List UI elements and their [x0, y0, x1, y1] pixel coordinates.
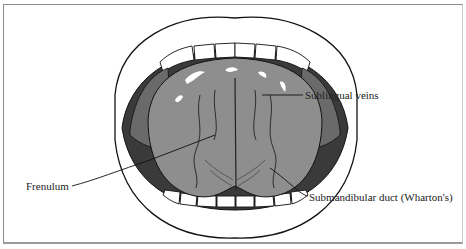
- label-frenulum: Frenulum: [26, 180, 69, 192]
- label-submandibular-duct: Submandibular duct (Wharton's): [309, 191, 453, 203]
- label-sublingual-veins: Sublingual veins: [305, 89, 379, 101]
- mouth-illustration: [0, 0, 466, 249]
